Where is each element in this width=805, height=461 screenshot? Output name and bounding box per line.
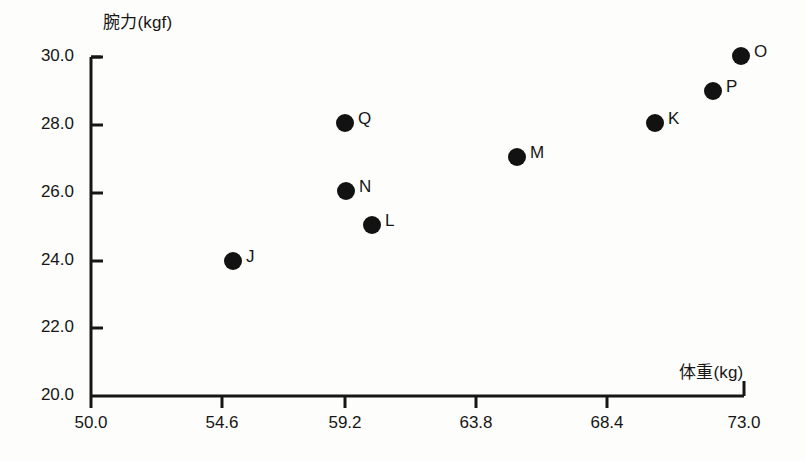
data-point-label: M	[530, 143, 544, 163]
y-tick-label-20: 20.0	[14, 385, 74, 405]
data-point-marker	[336, 114, 354, 132]
x-tick-label-68-4: 68.4	[572, 413, 642, 433]
data-point-marker	[732, 47, 750, 65]
data-point-label: N	[359, 177, 371, 197]
x-tick-label-54-6: 54.6	[187, 413, 257, 433]
x-tick-label-73: 73.0	[709, 413, 779, 433]
y-tick-label-26: 26.0	[14, 182, 74, 202]
x-tick-label-59-2: 59.2	[310, 413, 380, 433]
data-point-marker	[337, 182, 355, 200]
x-tick-label-50: 50.0	[56, 413, 126, 433]
data-point-marker	[704, 82, 722, 100]
scatter-chart: 腕力(kgf) 体重(kg) 30.0 28.0 26.0 24.0 22.0 …	[0, 0, 805, 461]
data-point-marker	[224, 252, 242, 270]
y-tick-label-24: 24.0	[14, 250, 74, 270]
y-tick-label-30: 30.0	[14, 46, 74, 66]
data-point-label: Q	[358, 109, 371, 129]
data-point-label: O	[754, 42, 767, 62]
y-tick-label-22: 22.0	[14, 317, 74, 337]
data-point-label: J	[246, 247, 255, 267]
y-axis-title: 腕力(kgf)	[103, 8, 172, 33]
data-point-marker	[363, 216, 381, 234]
data-point-marker	[508, 148, 526, 166]
x-tick-label-63-8: 63.8	[441, 413, 511, 433]
data-point-label: P	[726, 77, 737, 97]
y-tick-label-28: 28.0	[14, 114, 74, 134]
chart-axes	[0, 0, 805, 461]
data-point-marker	[646, 114, 664, 132]
data-point-label: L	[385, 211, 394, 231]
data-point-label: K	[668, 109, 679, 129]
x-axis-title: 体重(kg)	[679, 358, 743, 383]
